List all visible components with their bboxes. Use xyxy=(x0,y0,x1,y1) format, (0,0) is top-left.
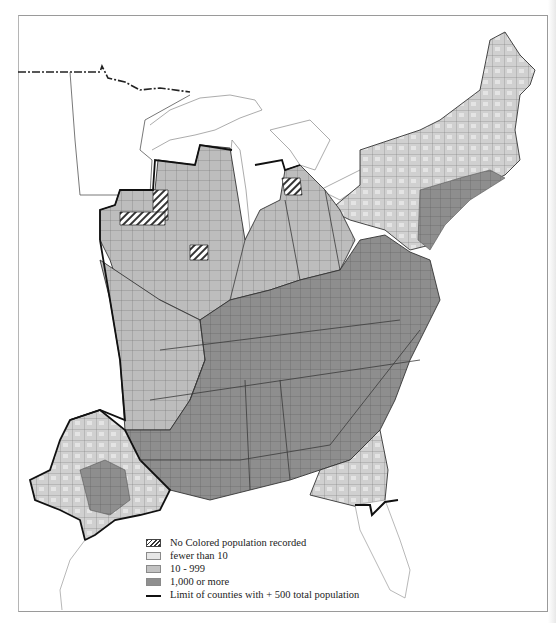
texas-coast-unfilled xyxy=(60,540,85,610)
legend-label: Limit of counties with + 500 total popul… xyxy=(170,589,359,601)
legend-item-fewer-than-10: fewer than 10 xyxy=(146,550,359,562)
dark-swatch-icon xyxy=(146,578,161,586)
legend-item-1000-or-more: 1,000 or more xyxy=(146,576,359,588)
florida-peninsula xyxy=(355,500,410,598)
legend-label: 10 - 999 xyxy=(170,563,205,575)
hatch-area-mi xyxy=(282,178,302,195)
legend-item-limit-line: Limit of counties with + 500 total popul… xyxy=(146,589,359,601)
legend-item-10-999: 10 - 999 xyxy=(146,563,359,575)
hatch-area-ia xyxy=(120,212,165,225)
legend-label: 1,000 or more xyxy=(170,576,229,588)
canada-border xyxy=(18,66,190,92)
legend-item-no-colored: No Colored population recorded xyxy=(146,537,359,549)
light-swatch-icon xyxy=(146,552,161,560)
medium-swatch-icon xyxy=(146,565,161,573)
lake-huron xyxy=(270,120,330,170)
hatch-area-il xyxy=(190,245,208,260)
legend-label: No Colored population recorded xyxy=(170,537,306,549)
limit-line-icon xyxy=(146,595,161,597)
lake-superior xyxy=(150,95,262,150)
legend-label: fewer than 10 xyxy=(170,550,228,562)
choropleth-map xyxy=(0,0,556,623)
map-legend: No Colored population recorded fewer tha… xyxy=(146,537,359,602)
hatch-swatch-icon xyxy=(146,539,161,547)
page-edge-shadow xyxy=(548,0,556,623)
